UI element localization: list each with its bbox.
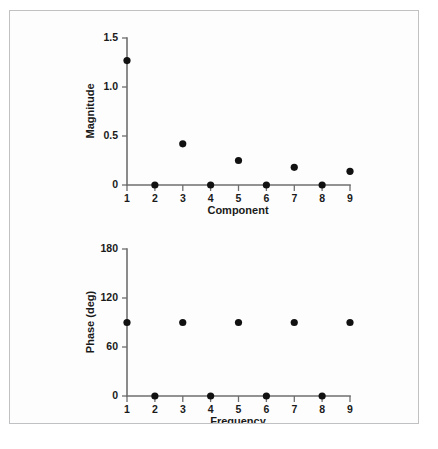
magnitude-chart: 1.5 1.0 0.5 0 1 2 3 [84, 31, 354, 216]
phase-chart: 180 120 60 0 1 2 3 [84, 242, 354, 423]
magnitude-xtick-label-0: 1 [124, 192, 130, 204]
magnitude-xtick-label-5: 6 [263, 192, 269, 204]
phase-xtick-label-1: 2 [152, 403, 158, 415]
phase-ytick-label-3: 180 [100, 242, 118, 254]
spectrum-plots-svg: 1.5 1.0 0.5 0 1 2 3 [10, 11, 418, 423]
phase-xtick-label-6: 7 [291, 403, 297, 415]
data-point [123, 57, 130, 64]
phase-xtick-label-8: 9 [347, 403, 353, 415]
data-point [151, 392, 158, 399]
data-point [179, 140, 186, 147]
data-point [235, 157, 242, 164]
magnitude-ytick-label-2: 1.0 [103, 80, 118, 92]
data-point [179, 319, 186, 326]
data-point [263, 392, 270, 399]
phase-data-points [123, 319, 353, 400]
magnitude-x-ticks [127, 185, 350, 191]
phase-xtick-label-0: 1 [124, 403, 130, 415]
magnitude-xtick-label-4: 5 [236, 192, 242, 204]
phase-x-ticks [127, 396, 350, 402]
phase-ytick-label-0: 0 [112, 389, 118, 401]
magnitude-data-points [123, 57, 353, 189]
phase-ytick-label-1: 60 [106, 340, 118, 352]
phase-xtick-label-3: 4 [208, 403, 214, 415]
phase-ytick-label-2: 120 [100, 291, 118, 303]
magnitude-x-axis-title: Component [207, 204, 268, 216]
data-point [346, 319, 353, 326]
data-point [346, 168, 353, 175]
data-point [291, 164, 298, 171]
phase-xtick-label-4: 5 [236, 403, 242, 415]
data-point [151, 181, 158, 188]
magnitude-xtick-label-3: 4 [208, 192, 214, 204]
magnitude-xtick-label-8: 9 [347, 192, 353, 204]
figure-frame: 1.5 1.0 0.5 0 1 2 3 [9, 10, 419, 424]
phase-y-axis-title: Phase (deg) [84, 290, 96, 353]
magnitude-xtick-label-2: 3 [180, 192, 186, 204]
data-point [291, 319, 298, 326]
data-point [319, 392, 326, 399]
phase-xtick-label-7: 8 [319, 403, 325, 415]
data-point [207, 392, 214, 399]
magnitude-ytick-label-0: 0 [112, 178, 118, 190]
data-point [235, 319, 242, 326]
charts-panel: 1.5 1.0 0.5 0 1 2 3 [10, 11, 418, 423]
phase-x-axis-title: Frequency [210, 415, 267, 423]
data-point [207, 181, 214, 188]
data-point [263, 181, 270, 188]
magnitude-ytick-label-3: 1.5 [103, 31, 118, 43]
magnitude-xtick-label-6: 7 [291, 192, 297, 204]
magnitude-xtick-label-1: 2 [152, 192, 158, 204]
data-point [123, 319, 130, 326]
magnitude-y-axis-title: Magnitude [84, 84, 96, 139]
phase-xtick-label-2: 3 [180, 403, 186, 415]
magnitude-xtick-label-7: 8 [319, 192, 325, 204]
data-point [319, 181, 326, 188]
phase-xtick-label-5: 6 [263, 403, 269, 415]
magnitude-ytick-label-1: 0.5 [103, 129, 118, 141]
